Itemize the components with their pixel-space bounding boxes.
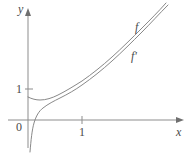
axis-ticks	[25, 89, 82, 124]
plot-canvas	[0, 0, 192, 153]
figure-container: y x 1 0 1 f f'	[0, 0, 192, 153]
x-axis-label: x	[176, 126, 181, 138]
curve-label-f-prime: f'	[131, 50, 137, 62]
y-tick-label-1: 1	[16, 83, 22, 95]
y-axis-arrow	[25, 8, 31, 16]
curve-label-f: f	[135, 21, 138, 33]
curve-f	[28, 3, 166, 100]
curve-f-prime	[30, 5, 168, 152]
x-axis-arrow	[176, 117, 184, 123]
x-tick-label-1: 1	[79, 126, 85, 138]
y-axis-label: y	[18, 3, 23, 15]
y-axis	[25, 8, 31, 148]
origin-label: 0	[16, 121, 22, 133]
